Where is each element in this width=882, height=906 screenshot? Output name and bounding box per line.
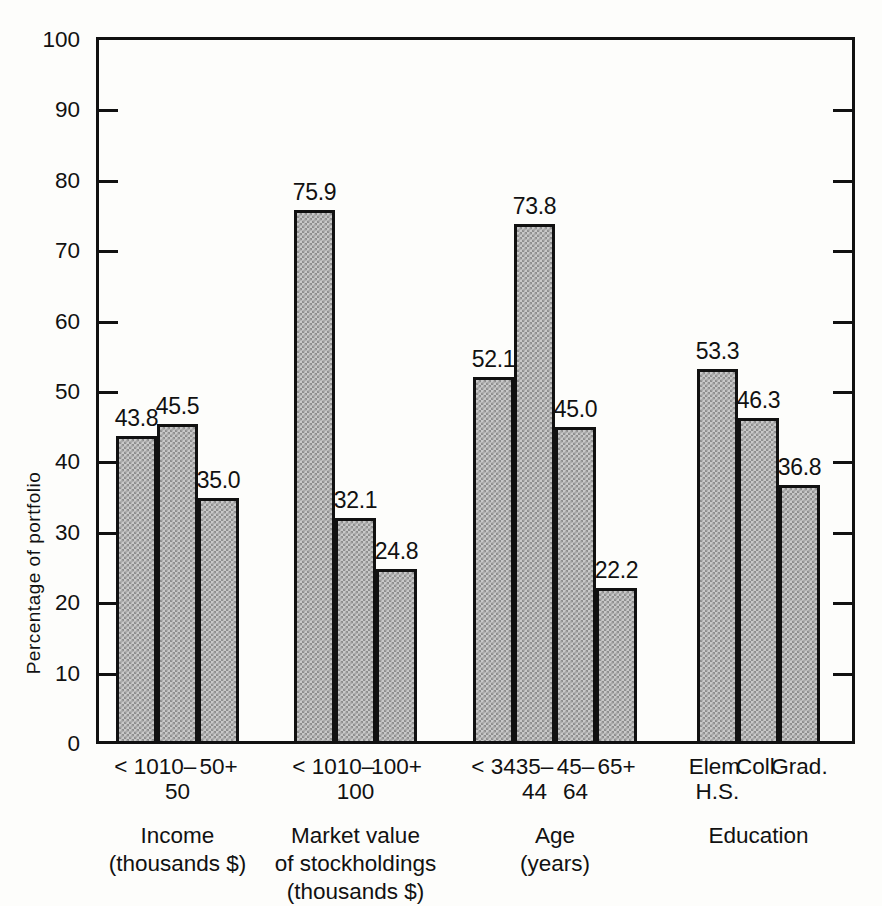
bar xyxy=(376,569,417,744)
y-tick-label-90: 90 xyxy=(20,99,80,121)
y-tick-label-40: 40 xyxy=(20,451,80,473)
y-tick-label-70: 70 xyxy=(20,240,80,262)
category-label-line2: 50 xyxy=(135,779,221,804)
bar xyxy=(779,485,820,744)
bar-value-label: 73.8 xyxy=(500,195,570,218)
bar-value-label: 36.8 xyxy=(765,456,835,479)
y-tick-label-0: 0 xyxy=(20,733,80,755)
y-tick-label-100: 100 xyxy=(20,29,80,51)
bar-value-label: 32.1 xyxy=(321,489,391,512)
y-tick-label-30: 30 xyxy=(20,522,80,544)
bar xyxy=(596,588,637,744)
bar-value-label: 35.0 xyxy=(184,469,254,492)
category-label-line2: 64 xyxy=(533,779,619,804)
group-label-unit: (thousands $) xyxy=(206,878,506,906)
bar-value-label: 53.3 xyxy=(683,340,753,363)
y-tick-label-10: 10 xyxy=(20,663,80,685)
category-label: Grad. xyxy=(757,754,843,779)
y-tick-label-80: 80 xyxy=(20,170,80,192)
bar xyxy=(697,369,738,744)
bar-value-label: 22.2 xyxy=(582,559,652,582)
category-label-line1: 50+ xyxy=(199,754,237,779)
bar xyxy=(514,224,555,744)
bar xyxy=(198,498,239,744)
bar-value-label: 45.5 xyxy=(143,395,213,418)
category-label: 65+ xyxy=(574,754,660,779)
group-label: Education xyxy=(609,822,882,850)
y-tick-label-20: 20 xyxy=(20,592,80,614)
category-label-line1: 65+ xyxy=(597,754,635,779)
bar-value-label: 52.1 xyxy=(459,348,529,371)
bar xyxy=(294,210,335,744)
group-label-line: Education xyxy=(609,822,882,850)
y-tick-label-50: 50 xyxy=(20,381,80,403)
bar-value-label: 24.8 xyxy=(362,540,432,563)
bar-value-label: 46.3 xyxy=(724,389,794,412)
category-label-line1: Grad. xyxy=(771,754,827,779)
bar-value-label: 45.0 xyxy=(541,398,611,421)
category-label-line2: H.S. xyxy=(675,779,761,804)
bar-value-label: 75.9 xyxy=(280,181,350,204)
category-label-line2: 100 xyxy=(313,779,399,804)
bar xyxy=(555,427,596,744)
bar xyxy=(473,377,514,744)
group-label-unit: (years) xyxy=(405,850,705,878)
y-axis-title: Percentage of portfolio xyxy=(23,393,45,753)
category-label: 100+ xyxy=(354,754,440,779)
y-tick-label-60: 60 xyxy=(20,311,80,333)
bar xyxy=(116,436,157,744)
category-label-line1: 100+ xyxy=(371,754,422,779)
category-label: 50+ xyxy=(176,754,262,779)
